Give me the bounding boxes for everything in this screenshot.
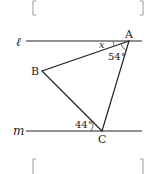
angle-c-label: 44° <box>75 119 93 130</box>
angle-a-label: 54° <box>108 51 126 62</box>
line-m-label: m <box>13 124 24 138</box>
angle-arc-a <box>121 44 126 50</box>
geometry-diagram: ℓ m A B C x 54° 44° <box>0 0 152 174</box>
vertex-c-label: C <box>98 133 106 146</box>
answer-box-top[interactable] <box>33 1 143 15</box>
angle-x-label: x <box>99 39 105 50</box>
answer-box-bottom[interactable] <box>33 159 143 174</box>
vertex-a-label: A <box>124 28 134 41</box>
vertex-b-label: B <box>31 65 39 78</box>
line-l-label: ℓ <box>16 35 21 49</box>
angle-arc-x <box>113 41 114 46</box>
